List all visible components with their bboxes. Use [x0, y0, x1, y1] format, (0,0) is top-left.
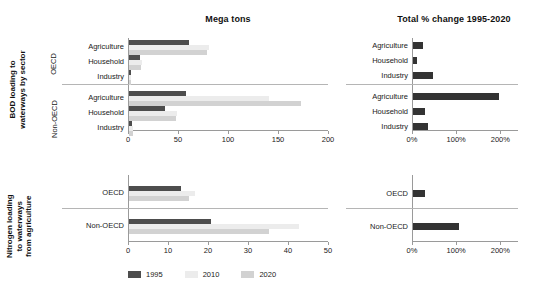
x-axis-tick-label: 200% [480, 246, 520, 255]
x-axis-tick [248, 242, 249, 245]
panel-bod-pct-change: 0%100%200%AgricultureHouseholdIndustryAg… [412, 38, 518, 130]
x-axis-tick [412, 131, 413, 134]
bar [129, 45, 209, 50]
x-axis-tick-label: 40 [268, 246, 308, 255]
bar [129, 80, 131, 85]
column-title-mega-tons: Mega tons [128, 14, 328, 24]
panel-nitrogen-pct-change: 0%100%200%OECDNon-OECD [412, 175, 518, 241]
category-label: Industry [346, 123, 408, 131]
chart-figure: Mega tons Total % change 1995-2020 BOD l… [0, 0, 552, 294]
subgroup-label-non-oecd: Non-OECD [51, 93, 59, 145]
category-label: Non-OECD [346, 223, 408, 231]
legend-item: 2010 [185, 270, 220, 279]
subgroup-label-oecd: OECD [50, 42, 58, 86]
bar [129, 91, 186, 96]
x-axis-tick [178, 131, 179, 134]
bar [129, 70, 131, 75]
category-label: OECD [62, 189, 124, 197]
bar [413, 57, 417, 64]
bar [413, 42, 423, 49]
bar [129, 116, 176, 121]
panel-nitrogen-mega-tons: 01020304050OECDNon-OECD [128, 175, 328, 241]
x-axis-tick-label: 0 [108, 246, 148, 255]
legend-item: 2020 [241, 270, 276, 279]
x-axis-tick-label: 150 [258, 135, 298, 144]
bar [129, 131, 133, 136]
bar [129, 196, 189, 201]
bar [129, 60, 142, 65]
group-separator [62, 84, 328, 85]
category-label: Industry [62, 124, 124, 132]
x-axis-tick-label: 10 [148, 246, 188, 255]
x-axis-tick-label: 0% [392, 135, 432, 144]
x-axis-tick-label: 30 [228, 246, 268, 255]
x-axis-tick-label: 100 [208, 135, 248, 144]
x-axis-tick [328, 242, 329, 245]
category-label: Household [62, 58, 124, 66]
bar [129, 101, 301, 106]
x-axis-tick [168, 242, 169, 245]
bar [129, 40, 189, 45]
category-label: Household [346, 57, 408, 65]
x-axis-tick [278, 131, 279, 134]
x-axis-tick [228, 131, 229, 134]
x-axis-tick-label: 200 [308, 135, 348, 144]
x-axis-tick [500, 242, 501, 245]
x-axis-tick-label: 100% [436, 246, 476, 255]
category-label: OECD [346, 190, 408, 198]
x-axis-line [412, 130, 518, 131]
bar [129, 75, 131, 80]
group-separator [346, 84, 518, 85]
x-axis-line [128, 241, 328, 242]
x-axis-line [412, 241, 518, 242]
bar [129, 126, 133, 131]
bar [129, 106, 165, 111]
x-axis-tick [288, 242, 289, 245]
bar [129, 191, 195, 196]
bar [129, 65, 141, 70]
legend-label: 2020 [259, 270, 276, 279]
bar [129, 186, 181, 191]
x-axis-tick-label: 50 [158, 135, 198, 144]
bar [129, 219, 211, 224]
x-axis-tick-label: 100% [436, 135, 476, 144]
bar [129, 111, 177, 116]
bar [129, 224, 299, 229]
x-axis-tick-label: 200% [480, 135, 520, 144]
x-axis-tick-label: 0 [108, 135, 148, 144]
bar [413, 223, 459, 230]
panel-bod-mega-tons: 050100150200AgricultureHouseholdIndustry… [128, 38, 328, 130]
x-axis-tick [500, 131, 501, 134]
legend-swatch [185, 271, 198, 278]
category-label: Household [346, 108, 408, 116]
x-axis-tick [208, 242, 209, 245]
group-separator [62, 208, 328, 209]
row-group-label-bod: BOD loading to waterways by sector [8, 40, 27, 140]
group-separator [346, 208, 518, 209]
legend-swatch [128, 271, 141, 278]
bar [413, 72, 433, 79]
bar [129, 55, 140, 60]
x-axis-tick-label: 50 [308, 246, 348, 255]
column-title-pct-change: Total % change 1995-2020 [383, 14, 525, 24]
x-axis-tick [128, 242, 129, 245]
category-label: Agriculture [62, 94, 124, 102]
legend-swatch [241, 271, 254, 278]
legend-label: 2010 [203, 270, 220, 279]
category-label: Non-OECD [62, 222, 124, 230]
category-label: Industry [346, 72, 408, 80]
category-label: Agriculture [346, 93, 408, 101]
bar [129, 96, 269, 101]
bar [129, 121, 132, 126]
x-axis-tick [412, 242, 413, 245]
category-label: Agriculture [346, 42, 408, 50]
category-label: Household [62, 109, 124, 117]
bar [413, 93, 499, 100]
bar [129, 50, 207, 55]
bar [413, 108, 425, 115]
bar [129, 229, 269, 234]
x-axis-tick-label: 20 [188, 246, 228, 255]
bar [413, 190, 425, 197]
legend-item: 1995 [128, 270, 163, 279]
x-axis-tick [456, 242, 457, 245]
